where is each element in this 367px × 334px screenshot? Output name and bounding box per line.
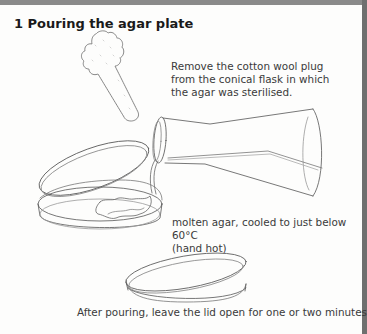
petri-dish-closed-icon	[123, 246, 249, 302]
cotton-wool-plug-icon	[81, 31, 138, 121]
illustration-canvas	[0, 0, 367, 334]
petri-dish-lid-raised-icon	[33, 129, 162, 229]
conical-flask-icon	[152, 109, 322, 196]
